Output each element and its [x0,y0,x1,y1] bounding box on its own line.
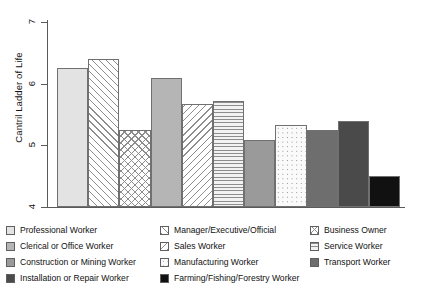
bar [369,176,400,207]
bar-series [0,0,428,218]
legend-swatch-icon [160,226,169,235]
bar [151,78,182,208]
legend-swatch-icon [310,258,319,267]
legend-swatch-icon [160,242,169,251]
legend-item-label: Farming/Fishing/Forestry Worker [174,274,299,283]
legend-swatch-icon [310,242,319,251]
legend-column-3: Business OwnerService WorkerTransport Wo… [310,223,428,271]
legend-item[interactable]: Professional Worker [6,223,158,238]
legend-item[interactable]: Clerical or Office Worker [6,239,158,254]
legend-item-label: Professional Worker [20,226,97,235]
legend-item-label: Manufacturing Worker [174,258,258,267]
legend-swatch-icon [160,274,169,283]
bar [182,104,213,207]
legend-swatch-icon [6,226,15,235]
legend-item[interactable]: Transport Worker [310,255,428,270]
legend-item[interactable]: Installation or Repair Worker [6,271,158,286]
legend-item[interactable]: Construction or Mining Worker [6,255,158,270]
bar-chart: Cantril Ladder of Life 7654 Professional… [0,0,428,293]
legend-item-label: Installation or Repair Worker [20,274,129,283]
legend-item[interactable]: Farming/Fishing/Forestry Worker [160,271,308,286]
bar [338,121,369,207]
bar [307,130,338,207]
bar [57,68,88,207]
legend-swatch-icon [6,258,15,267]
legend-item-label: Transport Worker [324,258,390,267]
legend-swatch-icon [160,258,169,267]
legend-item[interactable]: Manufacturing Worker [160,255,308,270]
legend-item-label: Sales Worker [174,242,225,251]
plot-area: Cantril Ladder of Life 7654 [0,0,428,218]
legend-item[interactable]: Business Owner [310,223,428,238]
bar [119,130,150,207]
legend-item-label: Service Worker [324,242,383,251]
legend-item[interactable]: Service Worker [310,239,428,254]
chart-legend: Professional WorkerClerical or Office Wo… [0,219,428,293]
bar [213,101,244,207]
legend-column-2: Manager/Executive/OfficialSales WorkerMa… [160,223,308,287]
legend-column-1: Professional WorkerClerical or Office Wo… [6,223,158,287]
legend-item-label: Manager/Executive/Official [174,226,276,235]
legend-swatch-icon [310,226,319,235]
legend-item[interactable]: Manager/Executive/Official [160,223,308,238]
legend-item-label: Clerical or Office Worker [20,242,113,251]
legend-item-label: Business Owner [324,226,387,235]
legend-swatch-icon [6,274,15,283]
legend-item-label: Construction or Mining Worker [20,258,136,267]
legend-swatch-icon [6,242,15,251]
bar [275,125,306,207]
bar [244,140,275,207]
legend-item[interactable]: Sales Worker [160,239,308,254]
bar [88,59,119,207]
